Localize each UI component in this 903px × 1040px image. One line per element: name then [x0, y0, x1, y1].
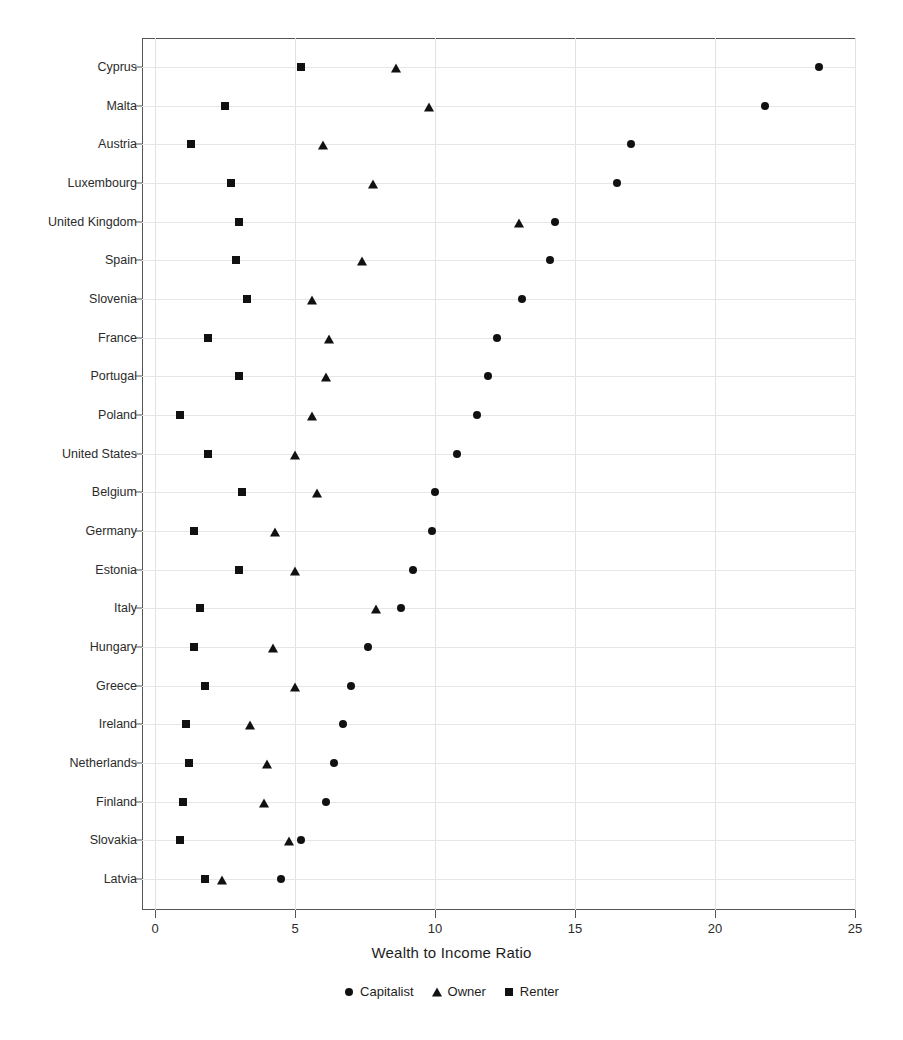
- data-point-capitalist: [322, 798, 330, 806]
- data-point-capitalist: [297, 836, 305, 844]
- y-tick-label: United States: [62, 447, 137, 461]
- legend-entry-capitalist[interactable]: Capitalist: [344, 984, 413, 999]
- triangle-marker-icon: [432, 987, 442, 997]
- data-point-renter: [196, 604, 204, 612]
- y-tick-label: Austria: [98, 137, 137, 151]
- data-point-renter: [204, 334, 212, 342]
- y-gridline: [142, 763, 856, 764]
- data-point-capitalist: [277, 875, 285, 883]
- chart-figure: CyprusMaltaAustriaLuxembourgUnited Kingd…: [0, 0, 903, 1040]
- x-gridline: [855, 38, 856, 910]
- data-point-renter: [232, 256, 240, 264]
- y-tick-label: Greece: [96, 679, 137, 693]
- data-point-renter: [204, 450, 212, 458]
- y-tick-label: Poland: [98, 408, 137, 422]
- data-point-capitalist: [484, 372, 492, 380]
- data-point-renter: [201, 682, 209, 690]
- x-gridline: [155, 38, 156, 910]
- y-gridline: [142, 260, 856, 261]
- plot-area: [142, 38, 856, 910]
- data-point-owner: [318, 141, 328, 150]
- y-tick-label: United Kingdom: [48, 215, 137, 229]
- data-point-renter: [235, 372, 243, 380]
- data-point-owner: [514, 218, 524, 227]
- data-point-owner: [312, 489, 322, 498]
- data-point-owner: [368, 180, 378, 189]
- data-point-capitalist: [546, 256, 554, 264]
- data-point-capitalist: [815, 63, 823, 71]
- x-tick-label: 10: [428, 921, 442, 936]
- x-tick-label: 0: [151, 921, 158, 936]
- data-point-capitalist: [493, 334, 501, 342]
- data-point-capitalist: [330, 759, 338, 767]
- data-point-owner: [371, 605, 381, 614]
- data-point-capitalist: [761, 102, 769, 110]
- data-point-renter: [182, 720, 190, 728]
- legend-label: Renter: [520, 984, 559, 999]
- data-point-owner: [290, 450, 300, 459]
- data-point-owner: [217, 876, 227, 885]
- data-point-capitalist: [627, 140, 635, 148]
- data-point-renter: [238, 488, 246, 496]
- data-point-renter: [190, 643, 198, 651]
- data-point-owner: [324, 334, 334, 343]
- y-gridline: [142, 608, 856, 609]
- y-tick-label: Spain: [105, 253, 137, 267]
- legend-entry-owner[interactable]: Owner: [432, 984, 486, 999]
- y-tick-label: Estonia: [95, 563, 137, 577]
- y-gridline: [142, 570, 856, 571]
- y-tick-label: Belgium: [92, 485, 137, 499]
- data-point-owner: [357, 257, 367, 266]
- data-point-capitalist: [428, 527, 436, 535]
- data-point-renter: [221, 102, 229, 110]
- data-point-renter: [243, 295, 251, 303]
- data-point-owner: [268, 644, 278, 653]
- y-gridline: [142, 686, 856, 687]
- data-point-owner: [290, 566, 300, 575]
- data-point-owner: [307, 296, 317, 305]
- data-point-owner: [307, 412, 317, 421]
- x-gridline: [435, 38, 436, 910]
- data-point-renter: [176, 411, 184, 419]
- data-point-owner: [245, 721, 255, 730]
- data-point-renter: [235, 218, 243, 226]
- data-point-owner: [259, 798, 269, 807]
- y-tick-label: France: [98, 331, 137, 345]
- y-tick-label: Ireland: [99, 717, 137, 731]
- y-gridline: [142, 67, 856, 68]
- y-gridline: [142, 144, 856, 145]
- y-tick-label: Italy: [114, 601, 137, 615]
- data-point-capitalist: [431, 488, 439, 496]
- x-tick-label: 5: [291, 921, 298, 936]
- y-tick-label: Germany: [86, 524, 137, 538]
- y-tick-label: Netherlands: [70, 756, 137, 770]
- y-gridline: [142, 106, 856, 107]
- data-point-capitalist: [339, 720, 347, 728]
- y-gridline: [142, 376, 856, 377]
- data-point-capitalist: [364, 643, 372, 651]
- data-point-owner: [321, 373, 331, 382]
- x-gridline: [715, 38, 716, 910]
- data-point-renter: [185, 759, 193, 767]
- x-tick-label: 25: [848, 921, 862, 936]
- y-gridline: [142, 802, 856, 803]
- legend-entry-renter[interactable]: Renter: [504, 984, 559, 999]
- data-point-capitalist: [473, 411, 481, 419]
- x-gridline: [575, 38, 576, 910]
- y-gridline: [142, 647, 856, 648]
- data-point-capitalist: [453, 450, 461, 458]
- x-tick-mark: [295, 910, 296, 918]
- data-point-owner: [284, 837, 294, 846]
- data-point-owner: [262, 760, 272, 769]
- y-tick-label: Malta: [106, 99, 137, 113]
- data-point-renter: [235, 566, 243, 574]
- data-point-owner: [391, 64, 401, 73]
- y-gridline: [142, 840, 856, 841]
- y-gridline: [142, 879, 856, 880]
- chart-legend: CapitalistOwnerRenter: [0, 984, 903, 999]
- y-tick-label: Cyprus: [97, 60, 137, 74]
- data-point-owner: [424, 102, 434, 111]
- data-point-capitalist: [347, 682, 355, 690]
- square-marker-icon: [504, 987, 514, 997]
- circle-marker-icon: [344, 987, 354, 997]
